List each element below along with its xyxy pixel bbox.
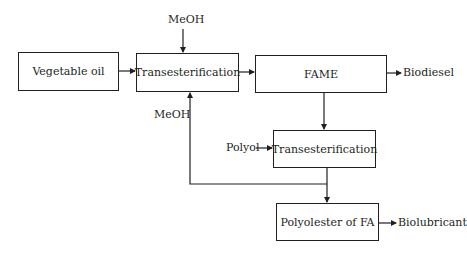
- label-biolubricant: Biolubricant: [398, 216, 467, 229]
- node-label: FAME: [304, 68, 338, 81]
- label-meoh-recycle: MeOH: [154, 108, 190, 121]
- node-polyolester: Polyolester of FA: [276, 203, 379, 241]
- connector-lines: [0, 0, 467, 253]
- node-label: Transesterification: [135, 66, 240, 79]
- label-biodiesel: Biodiesel: [403, 66, 454, 79]
- node-vegetable-oil: Vegetable oil: [18, 52, 119, 91]
- node-fame: FAME: [255, 55, 387, 93]
- node-transesterification-1: Transesterification: [136, 53, 239, 92]
- node-label: Transesterification: [272, 143, 377, 156]
- node-label: Polyolester of FA: [280, 216, 374, 229]
- label-polyol: Polyol: [226, 141, 259, 154]
- label-meoh-input: MeOH: [168, 13, 204, 26]
- node-transesterification-2: Transesterification: [273, 130, 376, 168]
- node-label: Vegetable oil: [32, 65, 104, 78]
